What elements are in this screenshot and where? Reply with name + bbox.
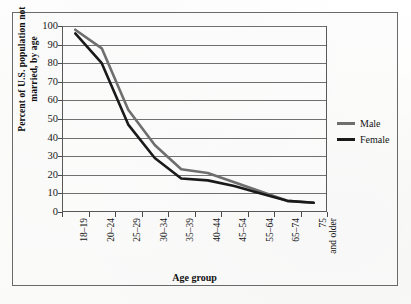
x-axis-tick-mark <box>301 212 302 217</box>
x-axis-tick-label: 20–24 <box>106 218 116 270</box>
x-axis-tick-label: 18–19 <box>79 218 89 270</box>
y-axis-tick-label: 90 <box>18 40 58 50</box>
x-axis-tick-label: 35–39 <box>185 218 195 270</box>
x-axis-tick-mark <box>115 212 116 217</box>
series-line-female <box>75 33 314 202</box>
y-axis-tick-label: 0 <box>18 207 58 217</box>
y-axis-tick-label: 100 <box>18 21 58 31</box>
y-axis-tick-label: 50 <box>18 114 58 124</box>
x-axis-tick-label-line1: 18–19 <box>79 218 89 242</box>
x-axis-tick-mark <box>195 212 196 217</box>
x-axis-tick-mark <box>168 212 169 217</box>
legend-swatch-icon <box>337 138 355 141</box>
x-axis-tick-label-line1: 65–74 <box>291 218 301 242</box>
y-axis-tick-label: 80 <box>18 58 58 68</box>
x-axis-tick-label: 65–74 <box>291 218 301 270</box>
x-axis-tick-labels: 18–1920–2425–2930–3435–3940–4445–5455–64… <box>62 218 327 270</box>
y-axis-tick-label: 60 <box>18 95 58 105</box>
x-axis-tick-label-line1: 35–39 <box>185 218 195 242</box>
x-axis-tick-mark <box>142 212 143 217</box>
x-axis-tick-mark <box>248 212 249 217</box>
y-axis-tick-label: 10 <box>18 188 58 198</box>
x-axis-tick-label-line1: 55–64 <box>265 218 275 242</box>
x-axis-tick-mark <box>221 212 222 217</box>
x-axis-tick-label: 75and older <box>318 218 338 270</box>
x-axis-tick-mark <box>274 212 275 217</box>
y-axis-tick-label: 30 <box>18 151 58 161</box>
x-axis-tick-label: 25–29 <box>132 218 142 270</box>
y-axis-tick-label: 20 <box>18 170 58 180</box>
series-lines <box>62 26 327 212</box>
x-axis-tick-mark <box>327 212 328 217</box>
x-axis-tick-label-line2: and older <box>328 218 338 270</box>
chart-legend: MaleFemale <box>337 118 397 150</box>
x-axis-tick-mark <box>62 212 63 217</box>
x-axis-tick-label-line1: 75 <box>318 218 328 228</box>
x-axis-tick-marks <box>62 212 327 217</box>
x-axis-tick-label-line1: 20–24 <box>106 218 116 242</box>
x-axis-title: Age group <box>62 272 327 283</box>
y-axis-tick-label: 70 <box>18 77 58 87</box>
x-axis-tick-label-line1: 40–44 <box>212 218 222 242</box>
x-axis-tick-label: 40–44 <box>212 218 222 270</box>
x-axis-tick-label-line1: 45–54 <box>238 218 248 242</box>
x-axis-tick-label: 45–54 <box>238 218 248 270</box>
x-axis-tick-mark <box>89 212 90 217</box>
legend-label: Male <box>360 118 381 129</box>
y-axis-tick-labels: 0102030405060708090100 <box>14 26 58 212</box>
x-axis-tick-label-line1: 30–34 <box>159 218 169 242</box>
legend-item: Female <box>337 134 397 145</box>
legend-label: Female <box>360 134 389 145</box>
x-axis-tick-label: 30–34 <box>159 218 169 270</box>
x-axis-tick-label-line1: 25–29 <box>132 218 142 242</box>
chart-figure: Percent of U.S. population not married, … <box>0 0 411 304</box>
y-axis-tick-label: 40 <box>18 133 58 143</box>
legend-swatch-icon <box>337 122 355 125</box>
series-line-male <box>75 30 314 203</box>
x-axis-tick-label: 55–64 <box>265 218 275 270</box>
legend-item: Male <box>337 118 397 129</box>
